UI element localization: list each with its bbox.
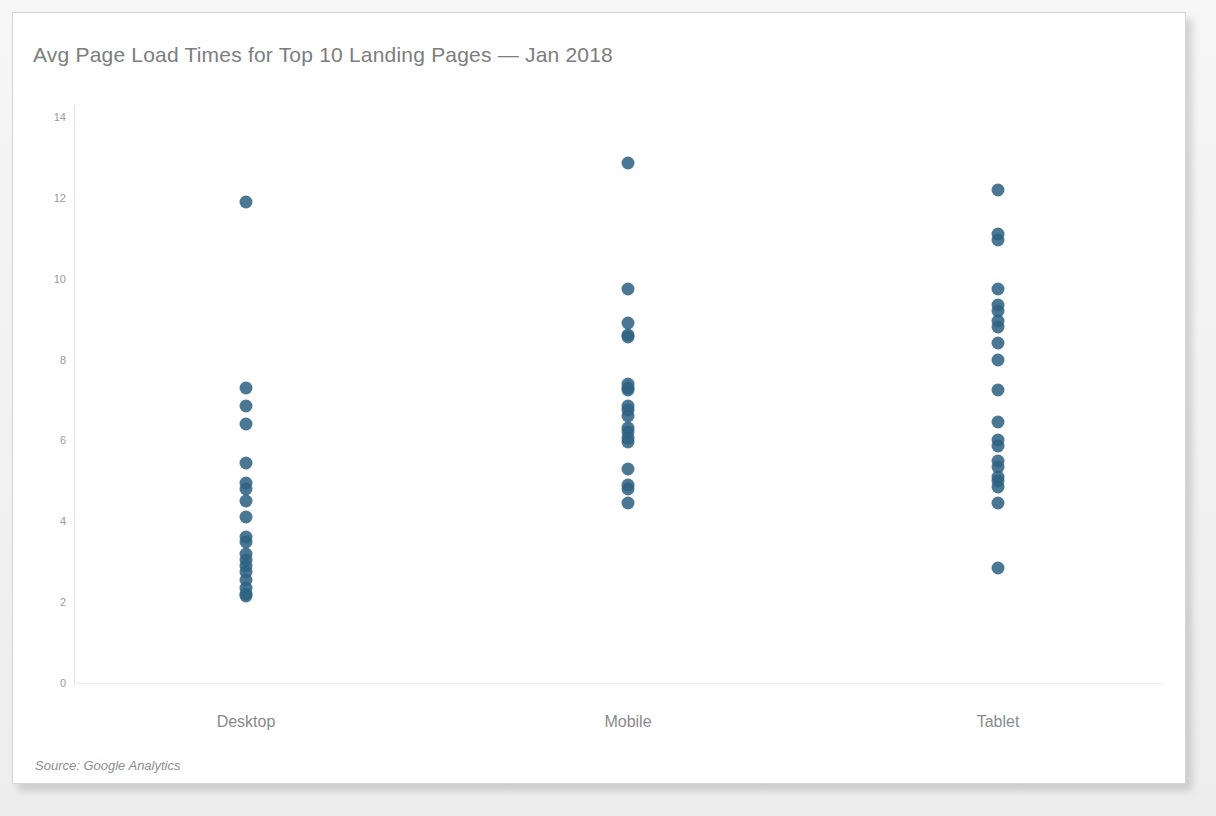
data-point (240, 535, 253, 548)
data-point (622, 331, 635, 344)
y-axis-tick-label: 10 (26, 273, 66, 285)
y-axis-tick-label: 0 (26, 677, 66, 689)
data-point (622, 436, 635, 449)
data-point (622, 462, 635, 475)
data-point (240, 195, 253, 208)
data-point (622, 317, 635, 330)
data-point (992, 282, 1005, 295)
data-point (622, 497, 635, 510)
y-axis-tick-label: 6 (26, 434, 66, 446)
data-point (622, 157, 635, 170)
data-point (622, 383, 635, 396)
y-axis-tick-label: 2 (26, 596, 66, 608)
chart-card: Avg Page Load Times for Top 10 Landing P… (12, 12, 1186, 784)
data-point (992, 353, 1005, 366)
data-point (240, 456, 253, 469)
x-axis-line (74, 683, 1164, 684)
data-point (992, 234, 1005, 247)
data-point (992, 321, 1005, 334)
y-axis-tick-label: 12 (26, 192, 66, 204)
data-point (240, 381, 253, 394)
y-axis-tick-label: 4 (26, 515, 66, 527)
y-axis-line (74, 105, 75, 683)
data-point (240, 400, 253, 413)
data-point (240, 590, 253, 603)
data-point (240, 482, 253, 495)
data-point (992, 416, 1005, 429)
data-point (992, 183, 1005, 196)
x-axis-category-label-tablet: Tablet (977, 713, 1020, 731)
y-axis-tick-label: 8 (26, 354, 66, 366)
data-point (992, 497, 1005, 510)
x-axis-category-label-desktop: Desktop (217, 713, 276, 731)
data-point (992, 561, 1005, 574)
x-axis-category-label-mobile: Mobile (604, 713, 651, 731)
source-note: Source: Google Analytics (35, 758, 180, 773)
data-point (240, 511, 253, 524)
scatter-plot-area: 02468101214 DesktopMobileTablet (13, 13, 1187, 785)
data-point (992, 440, 1005, 453)
data-point (992, 383, 1005, 396)
data-point (240, 495, 253, 508)
data-point (992, 480, 1005, 493)
data-point (622, 410, 635, 423)
data-point (622, 482, 635, 495)
data-point (622, 282, 635, 295)
data-point (992, 337, 1005, 350)
data-point (240, 418, 253, 431)
y-axis-tick-label: 14 (26, 111, 66, 123)
